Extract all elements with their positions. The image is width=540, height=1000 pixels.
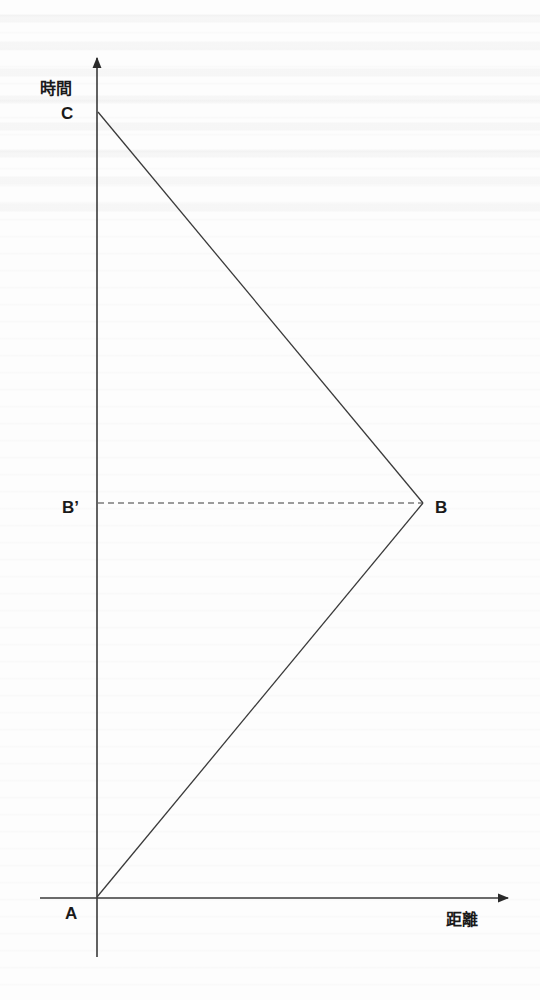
segment-b-c [98, 112, 423, 503]
point-a-label: A [65, 905, 77, 922]
time-axis-label: 時間 [40, 81, 72, 97]
page-background: 時間 C B’ B A 距離 [0, 0, 540, 1000]
spacetime-diagram [0, 0, 540, 1000]
point-bprime-label: B’ [62, 499, 79, 516]
point-c-label: C [61, 105, 73, 122]
distance-axis-label: 距離 [446, 912, 478, 928]
segment-a-b [97, 503, 423, 897]
point-b-label: B [435, 499, 447, 516]
